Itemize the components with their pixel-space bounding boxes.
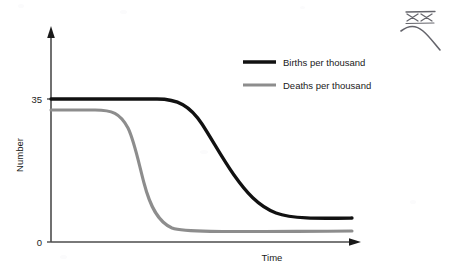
legend-label-deaths: Deaths per thousand (283, 80, 371, 91)
handwritten-mark-curve (401, 27, 440, 50)
y-tick-label-0: 0 (37, 237, 42, 248)
y-axis-arrowhead (47, 26, 55, 38)
handwritten-mark-cross-right (421, 14, 432, 21)
series-line-deaths-per-thousand (51, 110, 352, 232)
chart-legend: Births per thousand Deaths per thousand (243, 57, 371, 91)
x-axis-title: Time (262, 252, 283, 263)
legend-entry-deaths: Deaths per thousand (243, 80, 371, 91)
legend-entry-births: Births per thousand (243, 57, 365, 68)
series-line-births-per-thousand (51, 99, 352, 218)
chart-screenshot: 35 0 Number Time Births per thousand Dea… (0, 0, 454, 270)
y-axis-title: Number (14, 138, 25, 172)
legend-label-births: Births per thousand (283, 57, 365, 68)
x-axis-arrowhead (349, 238, 361, 246)
y-tick-label-35: 35 (31, 94, 42, 105)
handwritten-mark-cross-left (407, 14, 418, 21)
handwritten-mark-annotation (401, 12, 440, 51)
handwritten-mark-top-bar (406, 12, 435, 13)
line-chart: 35 0 Number Time Births per thousand Dea… (0, 0, 454, 270)
handwritten-mark-under-bar (406, 23, 434, 24)
